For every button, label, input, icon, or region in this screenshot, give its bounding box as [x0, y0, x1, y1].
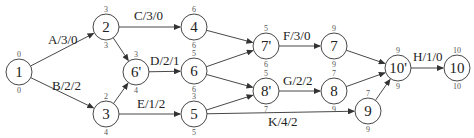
node-label: 5	[190, 106, 198, 122]
node-7p: 7'56	[253, 24, 279, 69]
node-label: 2	[102, 19, 110, 35]
node-bottom-value: 9	[366, 125, 370, 134]
node-label: 1	[15, 64, 23, 80]
edge-2-6p	[113, 38, 128, 61]
node-label: 10'	[389, 60, 407, 76]
node-bottom-value: 6	[264, 60, 268, 69]
node-top-value: 7	[366, 89, 370, 98]
node-5: 535	[181, 92, 207, 137]
edge-label: B/2/2	[52, 78, 81, 93]
edge-label: A/3/0	[48, 32, 78, 47]
edge-6-8p	[207, 74, 253, 87]
node-label: 6'	[131, 64, 142, 80]
node-1: 100	[6, 50, 32, 95]
node-label: 10	[450, 60, 465, 76]
edge-label: K/4/2	[268, 114, 298, 129]
node-bottom-value: 9	[332, 105, 336, 114]
node-bottom-value: 5	[192, 128, 196, 137]
edge-6-7p	[206, 51, 252, 67]
edge-label: C/3/0	[134, 8, 163, 23]
node-label: 9	[364, 103, 372, 119]
node-6p: 6'34	[123, 50, 149, 95]
edge-7-10p	[346, 50, 384, 63]
edge-5-8p	[206, 95, 252, 110]
node-top-value: 6	[192, 5, 196, 14]
node-bottom-value: 7	[264, 105, 268, 114]
node-top-value: 10	[453, 46, 461, 55]
edge-label: F/3/0	[283, 28, 310, 43]
node-bottom-value: 9	[332, 60, 336, 69]
node-top-value: 3	[104, 5, 108, 14]
node-label: 6	[190, 63, 198, 79]
node-10p: 10'99	[385, 46, 411, 91]
node-top-value: 5	[192, 49, 196, 58]
node-top-value: 5	[264, 24, 268, 33]
node-top-value: 9	[396, 46, 400, 55]
node-top-value: 3	[192, 92, 196, 101]
node-8: 879	[321, 69, 347, 114]
edge-label: D/2/1	[150, 53, 180, 68]
edge-3-6p	[114, 83, 128, 103]
edge-4-7p	[207, 30, 253, 42]
node-bottom-value: 3	[104, 41, 108, 50]
node-label: 7	[330, 38, 338, 54]
node-4: 466	[181, 5, 207, 50]
edge-label: H/1/0	[413, 49, 443, 64]
node-bottom-value: 4	[134, 86, 138, 95]
node-7: 799	[321, 24, 347, 69]
node-bottom-value: 10	[453, 82, 461, 91]
node-top-value: 5	[264, 69, 268, 78]
node-top-value: 2	[104, 92, 108, 101]
node-6: 656	[181, 49, 207, 94]
node-label: 7'	[261, 38, 272, 54]
node-bottom-value: 0	[17, 86, 21, 95]
node-10: 101010	[444, 46, 470, 91]
node-bottom-value: 9	[396, 82, 400, 91]
node-top-value: 0	[17, 50, 21, 59]
nodes-layer: 1002333246'344666565357'568'577998799791…	[6, 5, 470, 137]
node-3: 324	[93, 92, 119, 137]
edges-layer	[31, 27, 443, 114]
node-8p: 8'57	[253, 69, 279, 114]
node-label: 8	[330, 83, 338, 99]
edge-label: G/2/2	[283, 73, 313, 88]
node-label: 4	[190, 19, 198, 35]
node-top-value: 7	[332, 69, 336, 78]
edge-label: E/1/2	[137, 96, 165, 111]
node-bottom-value: 4	[104, 128, 108, 137]
node-9: 979	[355, 89, 381, 134]
node-top-value: 3	[134, 50, 138, 59]
edge-9-10p	[375, 79, 390, 100]
edge-8-10p	[346, 73, 385, 87]
node-label: 3	[102, 106, 110, 122]
network-diagram: A/3/0B/2/2C/3/0D/2/1E/1/2F/3/0G/2/2K/4/2…	[0, 0, 474, 138]
node-top-value: 9	[332, 24, 336, 33]
node-label: 8'	[261, 83, 272, 99]
node-2: 233	[93, 5, 119, 50]
edge-6p-6	[149, 71, 180, 72]
